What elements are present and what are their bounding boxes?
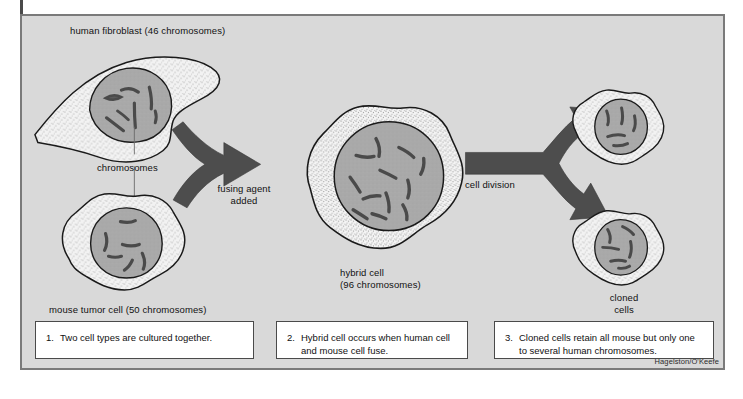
caption-1-text: Two cell types are cultured together. <box>60 331 239 344</box>
cell-hybrid <box>307 106 463 249</box>
label-cell-division: cell division <box>465 179 515 191</box>
label-hybrid-cell-line2: (96 chromosomes) <box>340 279 421 291</box>
label-chromosomes: chromosomes <box>97 162 158 174</box>
label-mouse-tumor-cell: mouse tumor cell (50 chromosomes) <box>49 304 206 316</box>
cell-cloned-bottom <box>573 211 664 285</box>
label-human-fibroblast: human fibroblast (46 chromosomes) <box>70 25 225 37</box>
caption-box-1: 1.Two cell types are cultured together. <box>35 321 254 359</box>
label-fusing-agent-line2: added <box>197 195 291 207</box>
cell-mouse-tumor <box>62 194 184 290</box>
caption-2-text: Hybrid cell occurs when human cell and m… <box>301 331 453 357</box>
label-cloned-cells-line2: cells <box>588 304 660 316</box>
caption-3-text: Cloned cells retain all mouse but only o… <box>519 331 699 357</box>
caption-3-number: 3. <box>505 331 519 344</box>
caption-2-number: 2. <box>287 331 301 344</box>
caption-box-2: 2.Hybrid cell occurs when human cell and… <box>276 321 468 359</box>
cell-cloned-top <box>573 90 664 164</box>
figure-panel: human fibroblast (46 chromosomes) chromo… <box>20 14 725 370</box>
caption-box-3: 3.Cloned cells retain all mouse but only… <box>494 321 714 359</box>
caption-1-number: 1. <box>46 331 60 344</box>
label-fusing-agent-line1: fusing agent <box>197 183 291 195</box>
artist-credit: Hagelston/O'Keefe <box>655 357 719 366</box>
figure-stage: human fibroblast (46 chromosomes) chromo… <box>22 16 723 368</box>
label-hybrid-cell-line1: hybrid cell <box>340 267 384 279</box>
label-cloned-cells-line1: cloned <box>588 292 660 304</box>
